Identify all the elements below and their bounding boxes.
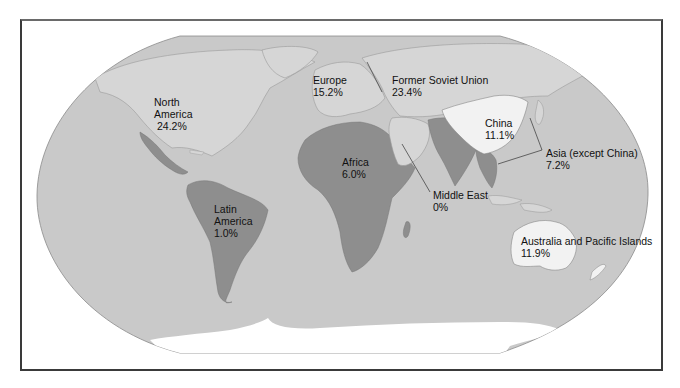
region-value: 11.9% (521, 247, 652, 259)
region-name: Middle East (433, 189, 488, 201)
region-name: America (214, 215, 253, 227)
region-name: Europe (313, 74, 347, 86)
region-name: Former Soviet Union (392, 74, 488, 86)
region-value: 7.2% (546, 159, 638, 171)
label-asia-except-china: Asia (except China) 7.2% (546, 147, 638, 171)
label-europe: Europe 15.2% (313, 74, 347, 98)
region-name: Africa (342, 156, 369, 168)
region-name: America (154, 108, 193, 120)
region-name: Latin (214, 203, 253, 215)
region-value: 11.1% (485, 129, 514, 141)
label-north-america: North America 24.2% (154, 96, 193, 132)
label-former-soviet-union: Former Soviet Union 23.4% (392, 74, 488, 98)
world-map (0, 0, 680, 388)
region-value: 24.2% (154, 120, 193, 132)
label-australia-pacific: Australia and Pacific Islands 11.9% (521, 235, 652, 259)
region-value: 15.2% (313, 86, 347, 98)
label-latin-america: Latin America 1.0% (214, 203, 253, 239)
region-value: 23.4% (392, 86, 488, 98)
region-value: 1.0% (214, 227, 253, 239)
label-africa: Africa 6.0% (342, 156, 369, 180)
label-china: China 11.1% (485, 117, 514, 141)
region-name: North (154, 96, 193, 108)
label-middle-east: Middle East 0% (433, 189, 488, 213)
region-name: Asia (except China) (546, 147, 638, 159)
region-name: Australia and Pacific Islands (521, 235, 652, 247)
region-value: 0% (433, 201, 488, 213)
region-name: China (485, 117, 514, 129)
region-value: 6.0% (342, 168, 369, 180)
